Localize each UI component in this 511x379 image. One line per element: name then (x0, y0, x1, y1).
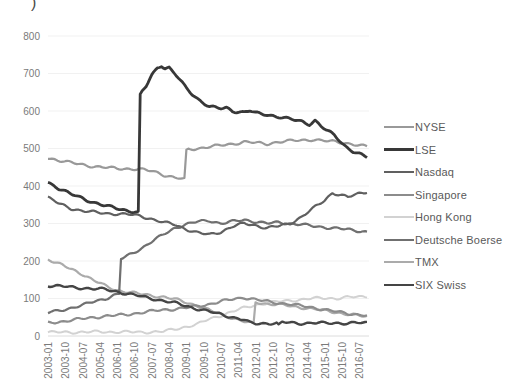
legend-label-nasdaq: Nasdaq (415, 166, 454, 178)
y-tick-label: 100 (23, 293, 40, 304)
x-tick-label: 2003-01 (43, 342, 54, 379)
y-tick-label: 0 (34, 331, 40, 342)
legend-item-singapore: Singapore (384, 184, 502, 207)
y-tick-label: 500 (23, 143, 40, 154)
legend: NYSELSENasdaqSingaporeHong KongDeutsche … (384, 116, 502, 296)
y-tick-label: 600 (23, 106, 40, 117)
x-tick-label: 2015-10 (337, 342, 348, 379)
legend-item-nasdaq: Nasdaq (384, 161, 502, 184)
legend-swatch-lse (384, 148, 414, 151)
series-line-nasdaq (48, 193, 367, 235)
x-tick-label: 2014-04 (302, 342, 313, 379)
x-tick-label: 2011-04 (233, 342, 244, 378)
legend-label-deutsche-boerse: Deutsche Boerse (415, 234, 502, 246)
chart-page: ) 01002003004005006007008002003-012003-1… (0, 0, 511, 379)
x-tick-label: 2005-04 (95, 342, 106, 379)
legend-swatch-hong-kong (384, 216, 414, 218)
x-tick-label: 2015-01 (320, 342, 331, 379)
x-tick-label: 2006-10 (129, 342, 140, 379)
y-tick-label: 800 (23, 31, 40, 42)
legend-label-lse: LSE (415, 144, 436, 156)
x-tick-label: 2009-01 (181, 342, 192, 379)
legend-item-deutsche-boerse: Deutsche Boerse (384, 229, 502, 252)
legend-item-six-swiss: SIX Swiss (384, 274, 502, 297)
x-tick-label: 2012-01 (251, 342, 262, 379)
legend-label-six-swiss: SIX Swiss (415, 279, 466, 291)
series-line-tmx (48, 259, 367, 323)
x-tick-label: 2007-07 (147, 342, 158, 379)
legend-label-hong-kong: Hong Kong (415, 211, 472, 223)
x-tick-label: 2010-07 (216, 342, 227, 379)
x-tick-label: 2013-07 (285, 342, 296, 379)
x-tick-label: 2016-07 (354, 342, 365, 379)
legend-label-nyse: NYSE (415, 121, 446, 133)
series-line-nyse (48, 139, 367, 178)
x-tick-label: 2003-10 (60, 342, 71, 379)
y-tick-label: 300 (23, 218, 40, 229)
legend-swatch-six-swiss (384, 284, 414, 286)
legend-swatch-singapore (384, 194, 414, 196)
legend-swatch-nyse (384, 126, 414, 128)
legend-swatch-tmx (384, 261, 414, 263)
x-tick-label: 2008-04 (164, 342, 175, 379)
legend-item-hong-kong: Hong Kong (384, 206, 502, 229)
y-tick-label: 700 (23, 68, 40, 79)
y-tick-label: 400 (23, 181, 40, 192)
legend-label-tmx: TMX (415, 256, 439, 268)
y-tick-label: 200 (23, 256, 40, 267)
legend-item-nyse: NYSE (384, 116, 502, 139)
legend-label-singapore: Singapore (415, 189, 467, 201)
x-tick-label: 2012-10 (268, 342, 279, 379)
legend-item-lse: LSE (384, 139, 502, 162)
x-tick-label: 2006-01 (112, 342, 123, 379)
legend-swatch-deutsche-boerse (384, 239, 414, 241)
legend-item-tmx: TMX (384, 251, 502, 274)
x-tick-label: 2004-07 (78, 342, 89, 379)
x-tick-label: 2009-10 (199, 342, 210, 379)
legend-swatch-nasdaq (384, 171, 414, 173)
